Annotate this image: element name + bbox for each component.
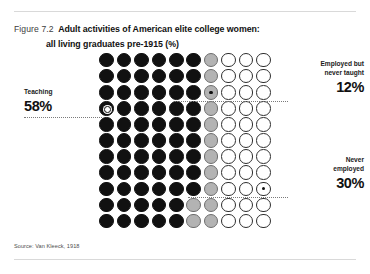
waffle-cell bbox=[220, 100, 237, 116]
waffle-dot-white bbox=[239, 165, 254, 180]
waffle-cell bbox=[202, 213, 219, 229]
waffle-cell bbox=[115, 52, 132, 68]
waffle-dot-gray bbox=[186, 198, 201, 213]
waffle-dot-white bbox=[256, 165, 271, 180]
waffle-dot-black bbox=[99, 165, 114, 180]
callout-teaching-value: 58% bbox=[24, 99, 84, 114]
waffle-cell bbox=[115, 68, 132, 84]
waffle-dot-white bbox=[256, 69, 271, 84]
waffle-dot-gray bbox=[204, 85, 219, 100]
waffle-cell bbox=[237, 149, 254, 165]
waffle-dot-black bbox=[152, 69, 167, 84]
waffle-dot-black bbox=[117, 165, 132, 180]
waffle-dot-black bbox=[99, 69, 114, 84]
waffle-cell bbox=[220, 197, 237, 213]
waffle-dot-black bbox=[134, 101, 149, 116]
waffle-dot-white bbox=[221, 69, 236, 84]
waffle-dot-black bbox=[186, 53, 201, 68]
waffle-cell bbox=[150, 100, 167, 116]
waffle-dot-gray bbox=[204, 69, 219, 84]
waffle-cell bbox=[220, 165, 237, 181]
waffle-cell bbox=[98, 181, 115, 197]
waffle-cell bbox=[133, 149, 150, 165]
waffle-dot-white bbox=[221, 101, 236, 116]
waffle-cell bbox=[115, 213, 132, 229]
waffle-cell bbox=[255, 68, 272, 84]
waffle-dot-gray bbox=[204, 182, 219, 197]
waffle-dot-white bbox=[221, 182, 236, 197]
waffle-cell bbox=[220, 68, 237, 84]
waffle-dot-black bbox=[117, 198, 132, 213]
waffle-cell bbox=[115, 197, 132, 213]
callout-never-employed: Never employed 30% bbox=[288, 156, 364, 191]
waffle-dot-black bbox=[186, 117, 201, 132]
waffle-cell bbox=[255, 132, 272, 148]
waffle-cell bbox=[133, 213, 150, 229]
waffle-cell bbox=[115, 165, 132, 181]
waffle-cell bbox=[255, 84, 272, 100]
waffle-dot-black bbox=[117, 69, 132, 84]
waffle-cell bbox=[185, 68, 202, 84]
callout-teaching: Teaching 58% bbox=[24, 88, 84, 114]
waffle-dot-black bbox=[134, 198, 149, 213]
waffle-dot-white bbox=[221, 85, 236, 100]
waffle-cell bbox=[133, 197, 150, 213]
waffle-cell bbox=[168, 132, 185, 148]
waffle-cell bbox=[202, 197, 219, 213]
waffle-dot-black bbox=[152, 133, 167, 148]
callout-teaching-label: Teaching bbox=[24, 88, 84, 97]
waffle-dot-black bbox=[169, 69, 184, 84]
waffle-dot-black bbox=[152, 182, 167, 197]
waffle-cell bbox=[150, 116, 167, 132]
waffle-dot-black bbox=[117, 117, 132, 132]
waffle-cell bbox=[168, 181, 185, 197]
waffle-dot-gray bbox=[204, 117, 219, 132]
waffle-cell bbox=[237, 116, 254, 132]
waffle-dot-white bbox=[221, 117, 236, 132]
waffle-cell bbox=[98, 68, 115, 84]
waffle-cell bbox=[237, 52, 254, 68]
waffle-cell bbox=[133, 116, 150, 132]
waffle-dot-white bbox=[256, 117, 271, 132]
waffle-cell bbox=[98, 149, 115, 165]
waffle-cell bbox=[98, 84, 115, 100]
waffle-cell bbox=[220, 132, 237, 148]
waffle-dot-black bbox=[134, 53, 149, 68]
waffle-dot-black bbox=[169, 198, 184, 213]
waffle-dot-black bbox=[117, 149, 132, 164]
waffle-dot-black bbox=[186, 165, 201, 180]
waffle-dot-gray bbox=[204, 149, 219, 164]
waffle-cell bbox=[98, 197, 115, 213]
waffle-cell bbox=[133, 181, 150, 197]
waffle-cell bbox=[202, 165, 219, 181]
waffle-dot-white bbox=[221, 198, 236, 213]
waffle-cell bbox=[133, 84, 150, 100]
waffle-dot-black bbox=[152, 165, 167, 180]
waffle-dot-black bbox=[117, 85, 132, 100]
waffle-cell bbox=[202, 149, 219, 165]
waffle-dot-white bbox=[221, 53, 236, 68]
waffle-cell bbox=[202, 52, 219, 68]
waffle-cell bbox=[185, 213, 202, 229]
waffle-dot-black bbox=[186, 182, 201, 197]
waffle-cell bbox=[150, 84, 167, 100]
callout-never-label-line-2: employed bbox=[288, 165, 364, 174]
waffle-cell bbox=[237, 132, 254, 148]
callout-employed-label-line-1: Employed but bbox=[288, 60, 364, 69]
waffle-dot-black bbox=[152, 149, 167, 164]
figure-title-line-1: Adult activities of American elite colle… bbox=[58, 24, 260, 34]
waffle-cell bbox=[115, 181, 132, 197]
waffle-dot-white bbox=[256, 53, 271, 68]
waffle-cell bbox=[255, 116, 272, 132]
waffle-dot-black bbox=[99, 85, 114, 100]
waffle-dot-black bbox=[169, 101, 184, 116]
waffle-dot-white bbox=[239, 85, 254, 100]
waffle-dot-white bbox=[239, 198, 254, 213]
waffle-dot-black bbox=[99, 101, 114, 116]
waffle-dot-black bbox=[134, 214, 149, 229]
waffle-dot-black bbox=[99, 53, 114, 68]
waffle-dot-black bbox=[99, 182, 114, 197]
waffle-cell bbox=[115, 100, 132, 116]
leader-line-teaching bbox=[24, 117, 102, 118]
waffle-dot-white bbox=[221, 149, 236, 164]
